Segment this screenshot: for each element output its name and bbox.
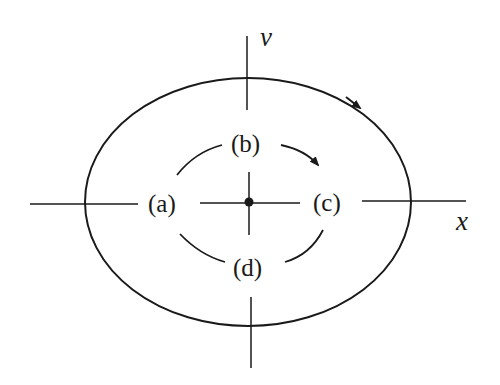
equilibrium-point (245, 198, 254, 207)
x-axis-label: x (455, 206, 468, 236)
phase-plane-diagram: (a) (b) (c) (d) v x (0, 0, 500, 385)
label-d: (d) (233, 254, 262, 282)
label-a: (a) (148, 190, 176, 218)
v-axis-label: v (260, 22, 272, 52)
label-b: (b) (231, 130, 260, 158)
label-c: (c) (313, 189, 341, 217)
